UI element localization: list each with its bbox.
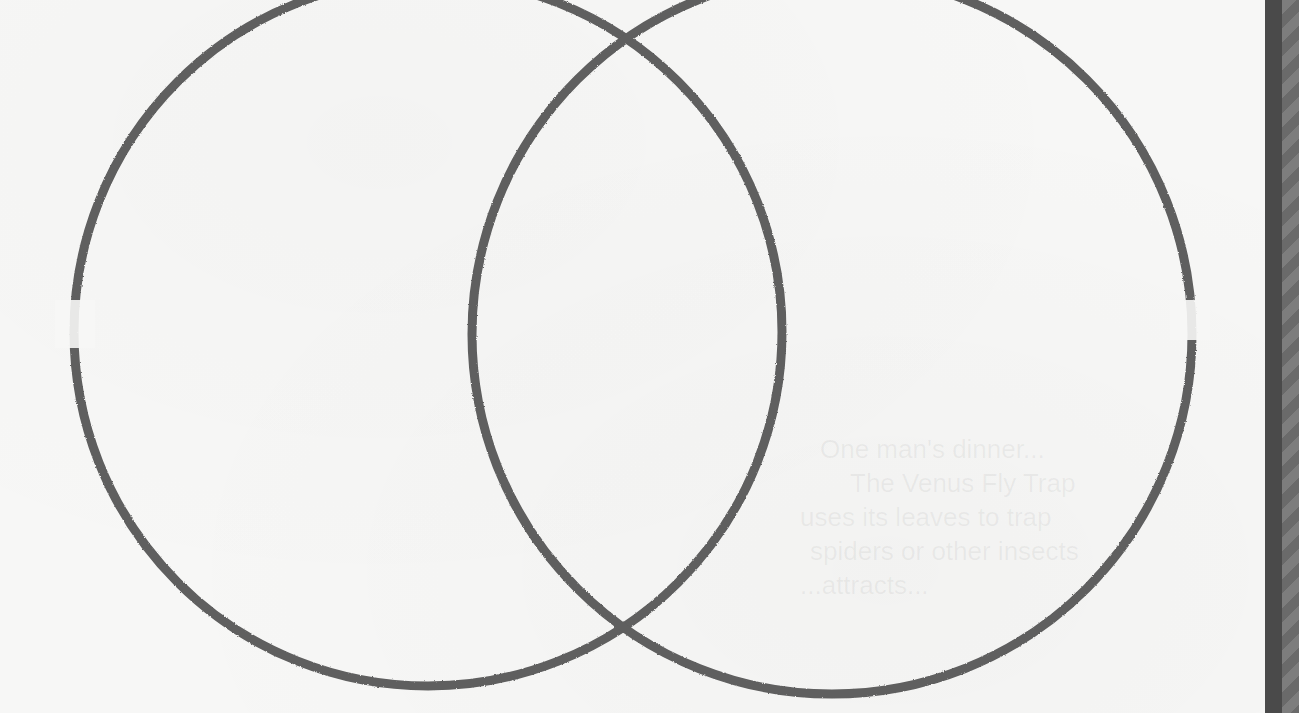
venn-diagram bbox=[0, 0, 1265, 713]
frame-edge-stripes bbox=[1282, 0, 1299, 713]
worn-gap-left bbox=[55, 300, 95, 348]
left-set-circle bbox=[74, 0, 782, 686]
frame-edge-bar bbox=[1265, 0, 1282, 713]
worn-gap-right bbox=[1170, 300, 1210, 340]
right-set-circle bbox=[472, 0, 1192, 694]
